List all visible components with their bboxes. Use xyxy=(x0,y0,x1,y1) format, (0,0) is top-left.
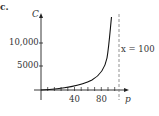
curve xyxy=(41,17,112,90)
y-axis-arrow-icon xyxy=(39,13,43,18)
x-axis-arrow-icon xyxy=(124,88,129,92)
chart-plot xyxy=(0,0,159,116)
